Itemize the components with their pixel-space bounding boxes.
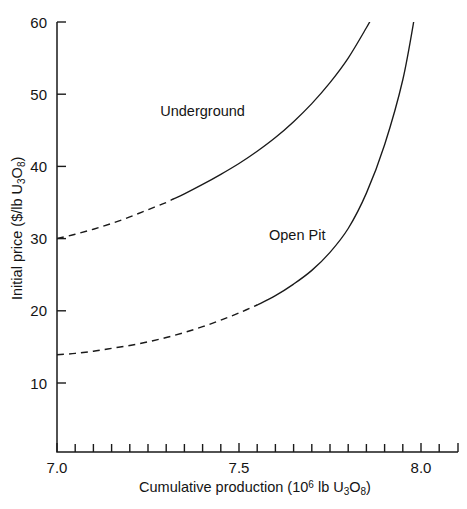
y-tick-label-20: 20 [30, 302, 47, 319]
curve-dashed-underground [57, 199, 173, 239]
x-axis-tick-marks [57, 443, 458, 452]
curve-solid-open-pit [257, 11, 415, 305]
x-axis-title: Cumulative production (106 lb U3O8) [139, 479, 371, 497]
y-axis-tick-labels: 102030405060 [30, 14, 47, 392]
chart-plot-area: 102030405060 7.07.58.0 UndergroundOpen P… [0, 0, 467, 509]
x-tick-label-7.0: 7.0 [47, 459, 68, 476]
y-tick-label-10: 10 [30, 375, 47, 392]
curve-label-underground: Underground [160, 103, 245, 119]
y-tick-label-60: 60 [30, 14, 47, 31]
y-axis-title: Initial price ($/lb U3O8) [9, 157, 27, 300]
chart-axis-lines [57, 22, 458, 452]
curve-dashed-open-pit [57, 305, 257, 355]
y-tick-label-30: 30 [30, 230, 47, 247]
y-axis-tick-marks [57, 22, 66, 383]
chart-curve-labels: UndergroundOpen Pit [160, 103, 325, 243]
x-tick-label-7.5: 7.5 [229, 459, 250, 476]
y-tick-label-50: 50 [30, 86, 47, 103]
chart-figure: 102030405060 7.07.58.0 UndergroundOpen P… [0, 0, 467, 509]
y-tick-label-40: 40 [30, 158, 47, 175]
x-tick-label-8.0: 8.0 [411, 459, 432, 476]
chart-curves [57, 11, 416, 355]
curve-label-open-pit: Open Pit [269, 227, 325, 243]
x-axis-tick-labels: 7.07.58.0 [47, 459, 432, 476]
